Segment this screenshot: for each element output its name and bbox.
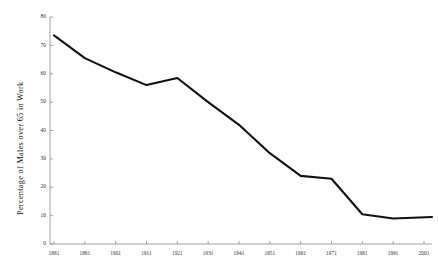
x-tick-label: 1891 bbox=[72, 251, 98, 256]
x-tick-label: 1981 bbox=[349, 251, 375, 256]
x-tick-label: 1961 bbox=[288, 251, 314, 256]
y-tick-label: 40 bbox=[32, 128, 46, 133]
y-tick-label: 30 bbox=[32, 156, 46, 161]
x-tick-label: 1911 bbox=[134, 251, 160, 256]
x-tick-label: 1991 bbox=[380, 251, 406, 256]
data-series-line bbox=[54, 35, 432, 218]
x-tick-label: 1931 bbox=[195, 251, 221, 256]
x-axis-ticks bbox=[54, 241, 424, 244]
y-tick-label: 0 bbox=[32, 241, 46, 246]
x-tick-label: 1971 bbox=[319, 251, 345, 256]
x-tick-label: 1941 bbox=[226, 251, 252, 256]
x-tick-label: 1881 bbox=[41, 251, 67, 256]
y-tick-label: 50 bbox=[32, 99, 46, 104]
line-chart: Percentage of Males over 65 in Work 0102… bbox=[0, 0, 438, 271]
y-tick-label: 10 bbox=[32, 213, 46, 218]
axis-lines bbox=[50, 17, 432, 244]
x-tick-label: 1921 bbox=[164, 251, 190, 256]
x-tick-label: 1901 bbox=[103, 251, 129, 256]
y-tick-label: 80 bbox=[32, 14, 46, 19]
y-axis-ticks bbox=[50, 17, 53, 244]
y-tick-label: 60 bbox=[32, 71, 46, 76]
x-tick-label: 1951 bbox=[257, 251, 283, 256]
x-tick-label: 2001 bbox=[411, 251, 437, 256]
y-tick-label: 20 bbox=[32, 184, 46, 189]
plot-area bbox=[0, 0, 438, 271]
y-tick-label: 70 bbox=[32, 43, 46, 48]
